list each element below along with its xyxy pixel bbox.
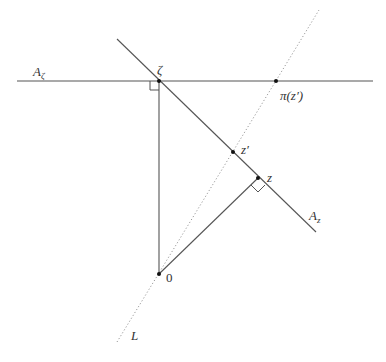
point-pi-z-prime [274, 79, 278, 83]
line-origin-z [159, 178, 258, 274]
label-pi-z-prime: π(z′) [280, 88, 303, 103]
label-A-zeta: Aζ [32, 64, 46, 81]
geometry-diagram: Aζ ζ π(z′) z′ z Az 0 L [0, 0, 386, 362]
point-zeta [157, 79, 161, 83]
label-z: z [266, 170, 272, 185]
point-z-prime [231, 150, 235, 154]
right-angle-marker-z [251, 185, 265, 192]
label-zeta: ζ [157, 62, 163, 77]
label-L: L [130, 328, 138, 343]
label-origin: 0 [166, 270, 173, 285]
line-A-z [117, 39, 316, 232]
point-origin [157, 272, 161, 276]
label-z-prime: z′ [240, 142, 249, 157]
label-A-z: Az [308, 208, 321, 225]
line-L [117, 10, 319, 342]
point-z [256, 176, 260, 180]
